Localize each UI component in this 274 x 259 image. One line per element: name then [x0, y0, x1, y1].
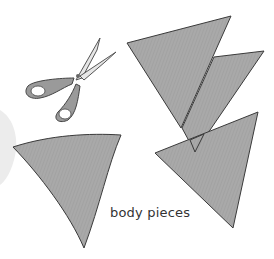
curved-triangle-piece-left	[13, 134, 121, 248]
scissors-icon	[26, 38, 116, 122]
caption-label: body pieces	[110, 205, 190, 220]
craft-illustration: body pieces	[0, 0, 274, 259]
illustration-drawing	[0, 0, 274, 259]
